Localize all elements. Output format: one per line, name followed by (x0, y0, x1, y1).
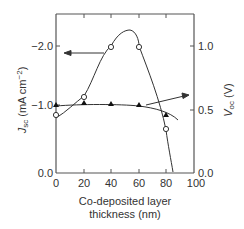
x-tick-label: 20 (78, 177, 90, 189)
y-right-tick-label: 0.0 (198, 167, 213, 179)
y-left-tick-label: −1.0 (31, 99, 53, 111)
y-left-tick-label: −2.0 (31, 40, 53, 52)
x-tick-label: 0 (53, 177, 59, 189)
jsc-markers (53, 44, 168, 131)
arrow-left-icon (64, 51, 104, 56)
jsc-curve (56, 30, 173, 172)
voc-point (81, 100, 87, 105)
y-right-tick-label: 1.0 (198, 40, 213, 52)
x-tick-labels: 0 20 40 60 80 100 (53, 177, 205, 189)
y-right-axis-label: Voc (V) (222, 83, 236, 117)
y-left-tick-label: 0.0 (38, 167, 53, 179)
x-axis-label-line2: thickness (nm) (89, 208, 161, 220)
y-left-axis-label: Jsc (mA cm−2) (15, 67, 30, 135)
plot-frame (56, 14, 194, 173)
jsc-point (136, 44, 141, 49)
jsc-point (53, 112, 58, 117)
x-axis-label-line1: Co-deposited layer (79, 195, 172, 207)
chart: 0 20 40 60 80 100 0.0 −1.0 −2.0 0.0 0.5 … (0, 0, 244, 229)
x-axis-label: Co-deposited layer thickness (nm) (79, 195, 172, 220)
arrow-right-icon (146, 93, 189, 105)
x-ticks (84, 14, 166, 173)
voc-point (136, 102, 142, 107)
x-tick-label: 60 (133, 177, 145, 189)
x-tick-label: 40 (105, 177, 117, 189)
jsc-point (163, 126, 168, 131)
voc-point (108, 101, 114, 106)
jsc-point (81, 94, 86, 99)
y-right-tick-label: 0.5 (198, 104, 213, 116)
jsc-point (108, 44, 113, 49)
y-left-tick-labels: 0.0 −1.0 −2.0 (31, 40, 53, 179)
y-right-tick-labels: 0.0 0.5 1.0 (198, 40, 213, 179)
voc-point (163, 112, 169, 117)
x-tick-label: 80 (160, 177, 172, 189)
